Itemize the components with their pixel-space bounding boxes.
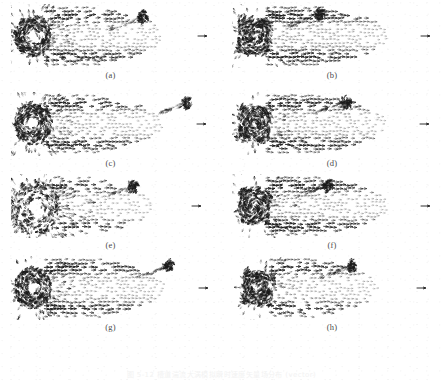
panel-c-vector-field (11, 92, 211, 156)
panel-e-vector-field (11, 174, 211, 238)
panel-b: (b) (221, 0, 443, 88)
panel-d: (d) (221, 88, 443, 170)
panel-g-vector-field (11, 256, 211, 320)
panel-b-label: (b) (327, 70, 338, 80)
panel-c-label: (c) (105, 158, 115, 168)
panel-d-label: (d) (327, 158, 338, 168)
panel-a-label: (a) (105, 70, 115, 80)
panel-f: (f) (221, 170, 443, 252)
panel-f-vector-field (232, 174, 432, 238)
panel-c: (c) (0, 88, 221, 170)
figure-root: (a)(b)(c)(d)(e)(f)(g)(h) 图 5-12 槽道湍流大涡模拟… (0, 0, 443, 384)
panel-grid: (a)(b)(c)(d)(e)(f)(g)(h) (0, 0, 443, 358)
panel-g: (g) (0, 252, 221, 338)
panel-h-vector-field (232, 256, 432, 320)
panel-e: (e) (0, 170, 221, 252)
panel-f-label: (f) (327, 240, 336, 250)
panel-d-vector-field (232, 92, 432, 156)
panel-h: (h) (221, 252, 443, 338)
panel-g-label: (g) (105, 322, 116, 332)
panel-a: (a) (0, 0, 221, 88)
panel-e-label: (e) (105, 240, 115, 250)
panel-b-vector-field (232, 4, 432, 68)
panel-a-vector-field (11, 4, 211, 68)
figure-caption: 图 5-12 槽道湍流大涡模拟瞬时速度矢量场分布 (vector) (0, 370, 443, 380)
panel-h-label: (h) (327, 322, 338, 332)
